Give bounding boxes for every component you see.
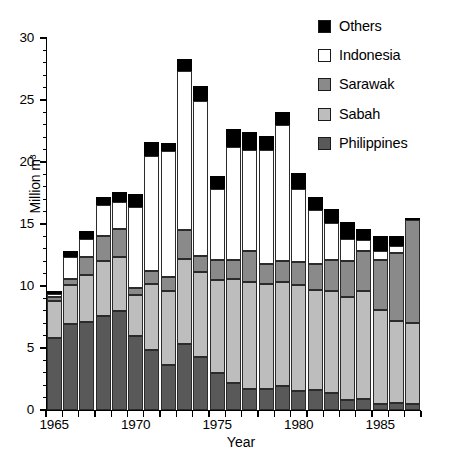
bar-column [79,38,94,410]
bar-segment-sarawak [291,262,306,284]
bar-segment-indonesia [389,246,404,252]
legend-label: Philippines [339,136,407,151]
bar-column [226,38,241,410]
bar-segment-sabah [63,285,78,325]
bar-column [210,38,225,410]
x-tick-label: 1980 [277,418,321,432]
bar-segment-sabah [226,279,241,383]
bar-segment-sabah [242,282,257,389]
bar-segment-philippines [112,311,127,410]
bar-segment-philippines [128,336,143,410]
bar-column [193,38,208,410]
bar-segment-sarawak [112,229,127,258]
bar-segment-indonesia [112,202,127,229]
bar-column [47,38,62,410]
x-tick [371,411,372,417]
bar-column [112,38,127,410]
bar-segment-sabah [128,295,143,336]
bar-segment-others [144,142,159,156]
x-tick [208,411,209,417]
bar-segment-sabah [193,272,208,356]
legend-item: Sabah [318,100,458,129]
legend: OthersIndonesiaSarawakSabahPhilippines [318,12,458,158]
bar-segment-sabah [275,282,290,386]
bar-segment-others [210,176,225,190]
x-tick [339,411,340,417]
x-axis-title: Year [196,434,286,450]
y-axis-title: Million m³ [27,129,43,239]
bar-segment-sabah [259,284,274,389]
bar-segment-philippines [324,393,339,410]
legend-swatch-icon [318,78,331,91]
y-tick-label: 10 [8,279,34,293]
bar-segment-sarawak [389,253,404,321]
bar-segment-indonesia [79,239,94,258]
bar-segment-indonesia [324,223,339,260]
bar-segment-others [47,291,62,294]
legend-swatch-icon [318,108,331,121]
bar-segment-others [177,59,192,71]
bar-segment-philippines [193,357,208,410]
bar-segment-indonesia [242,150,257,252]
legend-label: Others [339,19,382,34]
y-tick-major [40,99,47,100]
x-tick [355,411,356,417]
bar-segment-philippines [177,344,192,410]
x-tick [62,411,63,417]
bar-segment-indonesia [291,189,306,262]
bar-segment-sabah [210,280,225,373]
bar-segment-sarawak [128,288,143,294]
x-tick [159,411,160,417]
bar-segment-philippines [96,316,111,410]
bar-segment-philippines [63,324,78,410]
bar-segment-others [242,132,257,149]
x-tick [192,411,193,417]
bar-segment-philippines [373,404,388,410]
bar-segment-sarawak [144,271,159,283]
x-tick [257,411,258,417]
bar-segment-philippines [275,386,290,410]
bar-segment-sabah [96,261,111,316]
bar-segment-indonesia [340,239,355,261]
x-tick [404,411,405,417]
bar-column [275,38,290,410]
bar-segment-philippines [405,404,420,410]
legend-item: Others [318,12,458,41]
x-tick [388,411,389,417]
bar-segment-philippines [79,322,94,410]
x-tick [94,411,95,417]
chart-figure: 051015202530 19651970197519801985 Millio… [0,0,462,459]
bar-segment-sabah [373,310,388,404]
bar-segment-sabah [79,275,94,322]
x-tick [111,411,112,417]
bar-segment-indonesia [144,156,159,271]
legend-item: Indonesia [318,41,458,70]
x-tick-label: 1965 [32,418,76,432]
x-tick [78,411,79,417]
bar-segment-indonesia [96,205,111,236]
y-tick-label: 5 [8,341,34,355]
bar-segment-others [63,251,78,257]
bar-segment-others [79,231,94,238]
bar-column [144,38,159,410]
bar-segment-sabah [356,291,371,399]
bar-segment-philippines [210,373,225,410]
legend-label: Indonesia [339,48,401,63]
x-tick [420,411,421,417]
bar-segment-philippines [226,383,241,410]
bar-segment-sarawak [96,236,111,261]
bar-segment-others [324,209,339,223]
bar-segment-sarawak [324,260,339,291]
legend-swatch-icon [318,137,331,150]
bar-segment-indonesia [226,147,241,260]
x-tick-label: 1970 [114,418,158,432]
x-tick [323,411,324,417]
bar-segment-sabah [389,321,404,403]
bar-segment-sabah [308,290,323,390]
x-tick [143,411,144,417]
bar-segment-sabah [291,285,306,392]
bar-segment-sarawak [340,261,355,297]
bar-segment-sarawak [356,251,371,291]
bar-segment-sabah [340,297,355,400]
bar-segment-indonesia [161,151,176,277]
